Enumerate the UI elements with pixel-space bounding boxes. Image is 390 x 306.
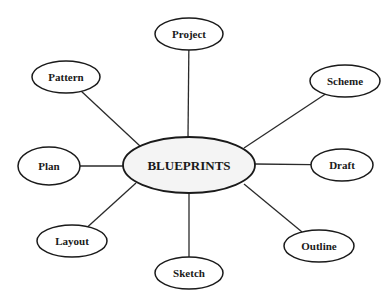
node-label-layout: Layout (55, 235, 89, 247)
node-label-scheme: Scheme (327, 75, 363, 87)
node-label-outline: Outline (301, 240, 337, 252)
node-label-sketch: Sketch (173, 267, 205, 279)
node-plan: Plan (18, 147, 80, 185)
connector-scheme (244, 94, 325, 148)
node-scheme: Scheme (310, 65, 380, 97)
center-label: BLUEPRINTS (147, 158, 230, 173)
node-layout: Layout (37, 225, 107, 257)
center-node: BLUEPRINTS (123, 137, 255, 193)
node-project: Project (155, 18, 223, 50)
connector-project (188, 50, 189, 137)
node-outline: Outline (284, 230, 354, 262)
connector-pattern (81, 91, 140, 146)
connector-layout (88, 183, 136, 227)
node-label-draft: Draft (329, 159, 355, 171)
node-sketch: Sketch (155, 257, 223, 289)
blueprints-mind-map: ProjectPatternSchemePlanDraftLayoutSketc… (0, 0, 390, 306)
connector-draft (255, 164, 311, 165)
node-label-plan: Plan (38, 160, 59, 172)
connector-outline (244, 184, 302, 232)
node-label-project: Project (172, 28, 206, 40)
node-label-pattern: Pattern (48, 71, 83, 83)
node-pattern: Pattern (32, 61, 100, 93)
node-draft: Draft (311, 149, 373, 181)
